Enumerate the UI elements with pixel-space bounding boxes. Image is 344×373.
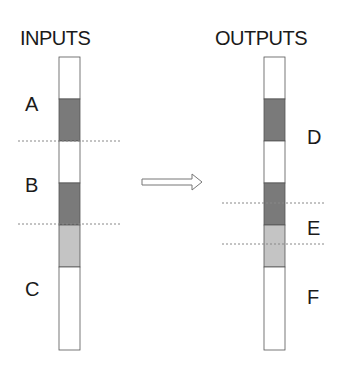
right-arrow-icon xyxy=(142,174,202,190)
output-segment-dark xyxy=(264,99,285,141)
input-segment-white xyxy=(59,57,80,99)
output-segment-white xyxy=(264,141,285,183)
input-segment-light xyxy=(59,225,80,267)
output-segment-dark xyxy=(264,183,285,225)
input-segment-dark xyxy=(59,183,80,225)
output-segment-white xyxy=(264,57,285,99)
diagram-canvas xyxy=(0,0,344,373)
input-bar xyxy=(59,57,80,350)
input-segment-dark xyxy=(59,99,80,141)
output-segment-light xyxy=(264,225,285,267)
output-segment-white xyxy=(264,267,285,350)
input-segment-white xyxy=(59,141,80,183)
input-segment-white xyxy=(59,267,80,350)
